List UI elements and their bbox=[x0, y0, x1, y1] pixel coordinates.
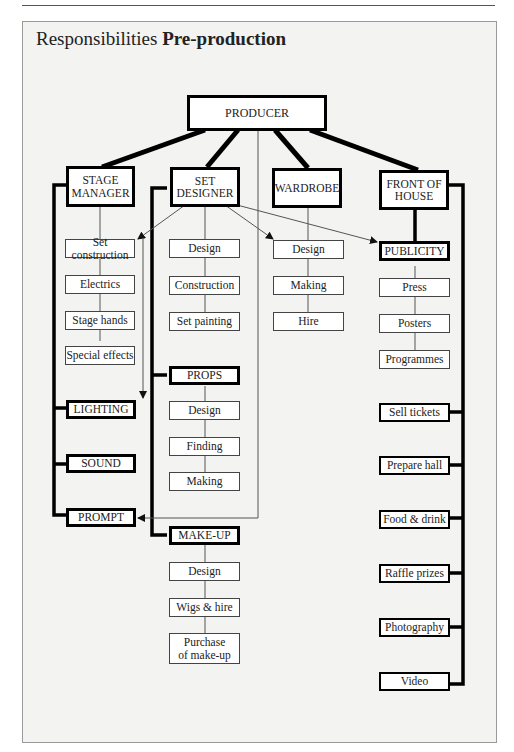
wardrobe-item: Making bbox=[273, 276, 344, 295]
sm-item: Set construction bbox=[65, 239, 135, 258]
props-box: PROPS bbox=[169, 366, 240, 385]
producer-box: PRODUCER bbox=[187, 95, 327, 131]
foh-task: Photography bbox=[379, 618, 450, 637]
lighting-box: LIGHTING bbox=[66, 400, 136, 419]
props-item: Finding bbox=[169, 437, 240, 456]
publicity-box: PUBLICITY bbox=[379, 241, 450, 261]
stage-manager-box: STAGE MANAGER bbox=[66, 166, 135, 207]
wardrobe-box: WARDROBE bbox=[272, 168, 342, 208]
makeup-box: MAKE-UP bbox=[169, 526, 240, 545]
publicity-item: Programmes bbox=[379, 350, 450, 369]
foh-task: Sell tickets bbox=[379, 403, 450, 422]
makeup-item: Design bbox=[169, 562, 240, 581]
wardrobe-item: Hire bbox=[273, 312, 344, 331]
prompt-box: PROMPT bbox=[66, 508, 136, 527]
props-item: Design bbox=[169, 401, 240, 420]
sd-item: Design bbox=[169, 239, 240, 258]
front-of-house-box: FRONT OF HOUSE bbox=[379, 170, 449, 210]
sm-item: Electrics bbox=[65, 275, 135, 294]
foh-task: Food & drink bbox=[379, 510, 450, 529]
foh-task: Video bbox=[379, 672, 450, 691]
wardrobe-item: Design bbox=[273, 240, 344, 259]
sm-item: Special effects bbox=[65, 346, 135, 365]
sd-item: Set painting bbox=[169, 312, 240, 331]
sound-box: SOUND bbox=[66, 454, 136, 473]
set-designer-box: SET DESIGNER bbox=[170, 167, 240, 207]
publicity-item: Press bbox=[379, 278, 450, 297]
makeup-item: Purchase of make-up bbox=[169, 633, 240, 664]
foh-task: Raffle prizes bbox=[379, 564, 450, 583]
props-item: Making bbox=[169, 472, 240, 491]
sd-item: Construction bbox=[169, 276, 240, 295]
publicity-item: Posters bbox=[379, 314, 450, 333]
foh-task: Prepare hall bbox=[379, 456, 450, 475]
makeup-item: Wigs & hire bbox=[169, 598, 240, 617]
sm-item: Stage hands bbox=[65, 311, 135, 330]
